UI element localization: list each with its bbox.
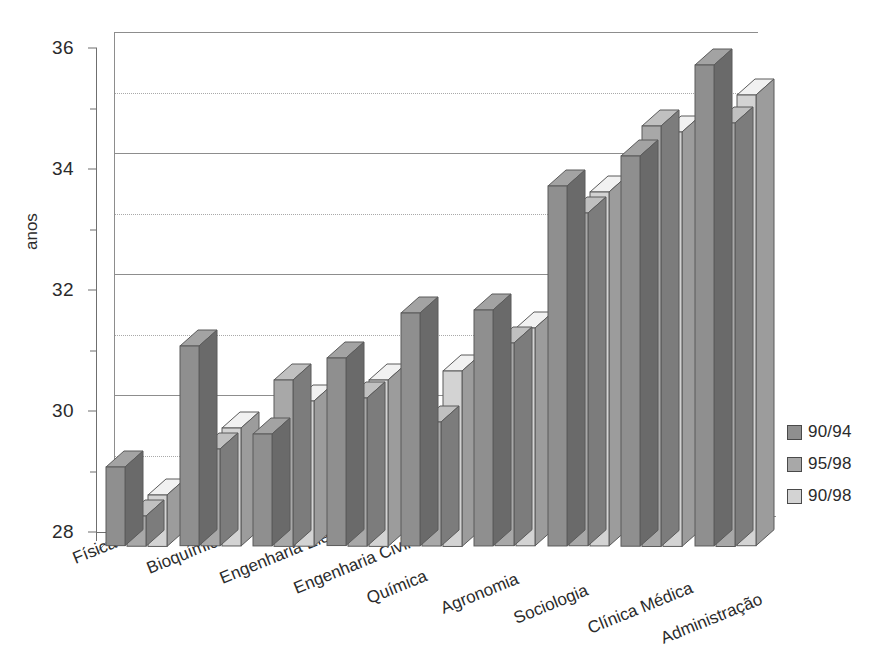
y-tick-label: 32 [52,279,74,301]
bar [253,420,272,532]
legend-item: 90/94 [787,416,879,448]
bar [327,344,346,532]
legend-label: 90/98 [808,486,852,506]
x-tick-label: Sociologia [511,581,591,629]
x-tick-label: Agronomia [438,569,522,618]
y-axis-line [96,48,97,532]
y-tick-label: 34 [52,158,74,180]
bar-3d-shape [253,418,292,548]
bar-chart: 2830323436 anos FísicaBioquímicaEngenhar… [0,0,883,670]
legend-swatch [787,489,802,504]
bar-3d-shape [401,297,440,548]
bar [695,51,714,532]
bar [106,453,125,532]
legend-item: 90/98 [787,480,879,512]
legend-swatch [787,425,802,440]
bar [401,299,420,532]
bar-3d-shape [548,170,587,548]
bar-3d-shape [180,330,219,548]
legend-item: 95/98 [787,448,879,480]
gridline-major [114,32,758,33]
legend-label: 95/98 [808,454,852,474]
bar-3d-shape [695,49,734,548]
bar [548,172,567,532]
x-tick-label: Química [364,566,430,608]
y-axis-title: anos [22,213,42,250]
bar [621,142,640,532]
bar-3d-shape [621,140,660,548]
legend-swatch [787,457,802,472]
bar [474,296,493,532]
y-axis-ticks: 2830323436 [0,0,88,670]
legend: 90/9495/9890/98 [787,416,879,512]
legend-label: 90/94 [808,422,852,442]
bars-layer [96,48,758,532]
bar-3d-shape [474,294,513,548]
y-tick-label: 30 [52,400,74,422]
y-tick-label: 36 [52,37,74,59]
y-tick-label: 28 [52,521,74,543]
plot-area [96,48,758,532]
bar [180,332,199,532]
y-axis-back-line [114,32,115,516]
bar-3d-shape [327,342,366,548]
bar-3d-shape [106,451,145,548]
